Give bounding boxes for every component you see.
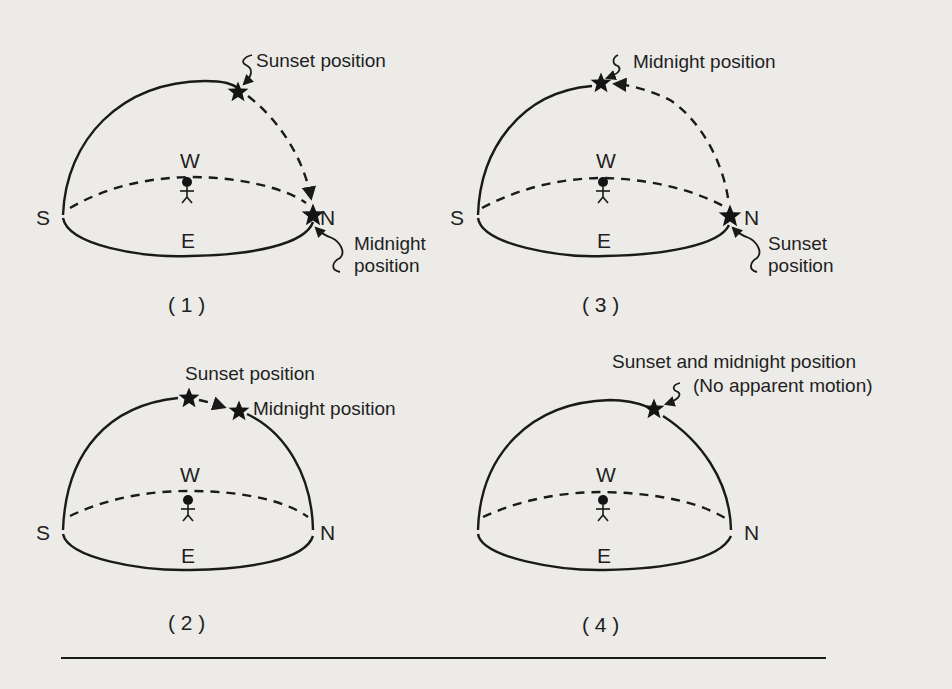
panel-caption: ( 4 ): [582, 613, 619, 636]
label-midnight-position: Midnight position: [253, 398, 396, 419]
label-west: W: [596, 149, 616, 172]
panel-1: S N W E Sunset position Midnight positio…: [36, 50, 427, 316]
dome-outline: [478, 86, 592, 215]
star-trail: [199, 400, 224, 407]
dome-outline-right: [663, 416, 731, 530]
label-sunset-line1: Sunset: [768, 233, 828, 254]
label-sunset-midnight: Sunset and midnight position: [612, 351, 856, 372]
label-south: S: [36, 206, 50, 229]
label-east: E: [597, 544, 611, 567]
celestial-hemisphere-figure: S N W E Sunset position Midnight positio…: [0, 0, 952, 689]
label-north: N: [320, 206, 335, 229]
label-west: W: [596, 463, 616, 486]
leader-squiggle: [316, 228, 342, 272]
star-sunset-icon: [719, 205, 742, 227]
label-north: N: [744, 521, 759, 544]
label-sunset-line2: position: [768, 255, 834, 276]
label-north: N: [744, 206, 759, 229]
dome-outline: [478, 400, 648, 530]
star-sunset-midnight-icon: [644, 399, 665, 419]
panel-caption: ( 3 ): [582, 293, 619, 316]
dome-outline: [63, 398, 178, 530]
star-midnight-icon: [591, 73, 612, 93]
observer-icon: [180, 177, 194, 203]
label-east: E: [181, 544, 195, 567]
label-west: W: [180, 463, 200, 486]
label-sunset-position: Sunset position: [256, 50, 386, 71]
dome-outline-right: [247, 414, 313, 530]
label-south: S: [450, 206, 464, 229]
leader-squiggle: [733, 228, 759, 272]
observer-icon: [596, 495, 610, 521]
label-midnight-line2: position: [354, 255, 420, 276]
observer-icon: [596, 177, 610, 203]
panel-caption: ( 2 ): [168, 611, 205, 634]
star-trail: [615, 84, 728, 198]
label-sunset-position: Sunset position: [185, 363, 315, 384]
panel-3: S N W E Midnight position Sunset positio…: [450, 51, 834, 316]
star-trail: [248, 96, 311, 198]
star-midnight-icon: [229, 401, 250, 421]
label-south: S: [36, 521, 50, 544]
label-north: N: [320, 521, 335, 544]
observer-icon: [181, 495, 195, 521]
leader-squiggle: [243, 55, 252, 84]
label-midnight-position: Midnight position: [633, 51, 776, 72]
panel-caption: ( 1 ): [168, 293, 205, 316]
leader-squiggle: [666, 383, 680, 404]
label-midnight-line1: Midnight: [354, 233, 427, 254]
label-no-apparent-motion: (No apparent motion): [693, 375, 873, 396]
star-sunset-icon: [179, 388, 200, 408]
label-east: E: [597, 229, 611, 252]
leader-squiggle: [607, 55, 620, 78]
dome-outline: [63, 81, 238, 215]
label-west: W: [180, 149, 200, 172]
label-east: E: [181, 229, 195, 252]
panel-2: S N W E Sunset position Midnight positio…: [36, 363, 396, 634]
panel-4: N W E Sunset and midnight position (No a…: [478, 351, 873, 636]
